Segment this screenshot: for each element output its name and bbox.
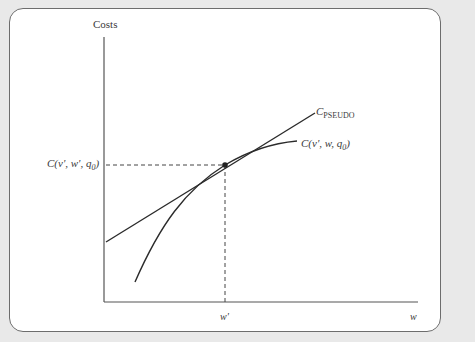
pseudo-line-label-sub: PSEUDO (323, 111, 354, 120)
cost-curve-label-main: C(v', w, q (301, 137, 342, 149)
x-tick-label: w' (220, 312, 229, 322)
y-tick-label: C(v', w', q0) (47, 158, 99, 169)
cost-curve-label: C(v', w, q0) (301, 138, 350, 149)
pseudo-cost-line (106, 113, 315, 242)
pseudo-line-label: CPSEUDO (316, 106, 354, 117)
cost-curve (135, 141, 297, 282)
cost-diagram (0, 0, 475, 342)
tangent-point (222, 162, 228, 168)
y-axis-label: Costs (93, 19, 117, 30)
y-tick-label-close: ) (95, 157, 99, 169)
y-tick-label-main: C(v', w', q (47, 157, 91, 169)
cost-curve-label-close: ) (346, 137, 350, 149)
x-axis-label: w (410, 312, 417, 322)
